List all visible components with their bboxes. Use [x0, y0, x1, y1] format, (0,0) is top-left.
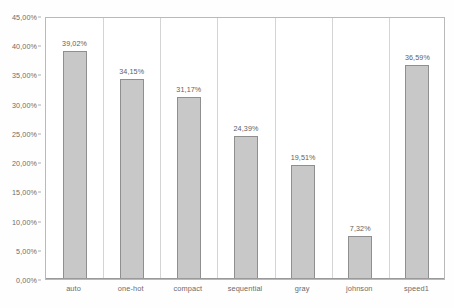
- bar-group: 31,17%: [160, 18, 217, 279]
- x-tick-label: compact: [174, 284, 203, 293]
- x-tick-label: gray: [295, 284, 310, 293]
- bar-group: 7,32%: [332, 18, 389, 279]
- bar-group: 19,51%: [275, 18, 332, 279]
- y-tick-label: 10,00%: [12, 217, 37, 226]
- x-axis: autoone-hotcompactsequentialgrayjohnsons…: [45, 284, 445, 302]
- bar-value-label: 36,59%: [405, 53, 430, 62]
- y-axis: 0,00%5,00%10,00%15,00%20,00%25,00%30,00%…: [0, 17, 41, 280]
- x-tick-label: speed1: [404, 284, 429, 293]
- y-tick-label: 0,00%: [16, 276, 37, 285]
- bar: [405, 65, 429, 279]
- bar: [120, 79, 144, 279]
- y-tick-label: 5,00%: [16, 246, 37, 255]
- y-tick-label: 30,00%: [12, 100, 37, 109]
- y-tick-mark: [38, 46, 41, 47]
- y-tick-label: 35,00%: [12, 71, 37, 80]
- bar: [63, 51, 87, 279]
- bar-value-label: 19,51%: [291, 153, 316, 162]
- bar-group: 24,39%: [217, 18, 274, 279]
- y-tick-mark: [38, 17, 41, 18]
- axis-baseline: [46, 278, 444, 279]
- y-tick-label: 40,00%: [12, 42, 37, 51]
- y-tick-mark: [38, 75, 41, 76]
- y-tick-mark: [38, 192, 41, 193]
- bar: [291, 165, 315, 279]
- x-tick-label: sequential: [228, 284, 263, 293]
- y-tick-mark: [38, 250, 41, 251]
- x-tick-label: one-hot: [118, 284, 144, 293]
- y-tick-label: 15,00%: [12, 188, 37, 197]
- bar-value-label: 34,15%: [119, 67, 144, 76]
- bar-value-label: 7,32%: [350, 224, 371, 233]
- bar-chart-figure: 0,00%5,00%10,00%15,00%20,00%25,00%30,00%…: [0, 0, 454, 308]
- bar-value-label: 31,17%: [176, 85, 201, 94]
- plot-area: 39,02%34,15%31,17%24,39%19,51%7,32%36,59…: [45, 17, 445, 280]
- bar: [177, 97, 201, 279]
- y-tick-label: 45,00%: [12, 13, 37, 22]
- x-tick-label: auto: [66, 284, 81, 293]
- bar-group: 39,02%: [46, 18, 103, 279]
- y-tick-label: 25,00%: [12, 129, 37, 138]
- x-tick-label: johnson: [346, 284, 373, 293]
- y-tick-mark: [38, 163, 41, 164]
- y-tick-mark: [38, 104, 41, 105]
- bar: [348, 236, 372, 279]
- y-tick-mark: [38, 221, 41, 222]
- y-tick-label: 20,00%: [12, 159, 37, 168]
- bar: [234, 136, 258, 279]
- bar-value-label: 24,39%: [233, 124, 258, 133]
- bar-value-label: 39,02%: [62, 39, 87, 48]
- y-tick-mark: [38, 280, 41, 281]
- y-tick-mark: [38, 133, 41, 134]
- bar-group: 34,15%: [103, 18, 160, 279]
- bar-group: 36,59%: [389, 18, 446, 279]
